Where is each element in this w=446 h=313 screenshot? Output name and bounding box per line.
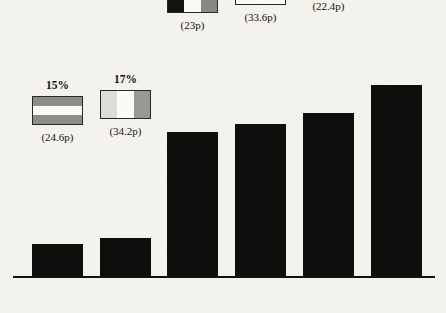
flag-band: [201, 0, 217, 12]
flag-band: [236, 0, 285, 4]
flag-band: [33, 97, 82, 106]
pence-label-italy: (34.2p): [90, 125, 161, 137]
flag-band: [168, 0, 184, 12]
flag-band: [134, 91, 150, 118]
value-label-italy: 17%: [92, 73, 159, 85]
bar-netherlands[interactable]: [303, 113, 354, 276]
x-axis-line: [13, 276, 435, 278]
flag-band: [184, 0, 200, 12]
flag-france-icon: [167, 0, 218, 13]
pence-label-spain: (24.6p): [22, 131, 93, 143]
pence-label-netherlands: (22.4p): [293, 0, 364, 12]
flag-band: [117, 91, 133, 118]
bar-chart: 15% (24.6p) Spain 17% (34.2p) Italy: [0, 0, 446, 313]
pence-label-germany: (33.6p): [225, 11, 296, 23]
pence-label-france: (23p): [157, 19, 228, 31]
bar-spain[interactable]: [32, 244, 83, 276]
flag-italy-icon: [100, 90, 151, 119]
flag-band: [33, 106, 82, 115]
flag-germany-icon: [235, 0, 286, 5]
bar-germany[interactable]: [235, 124, 286, 276]
flag-spain-icon: [32, 96, 83, 125]
bar-france[interactable]: [167, 132, 218, 276]
value-label-spain: 15%: [24, 79, 91, 91]
plot-area: 15% (24.6p) Spain 17% (34.2p) Italy: [0, 0, 446, 313]
flag-band: [101, 91, 117, 118]
flag-band: [33, 115, 82, 124]
bar-italy[interactable]: [100, 238, 151, 276]
bar-uk[interactable]: [371, 85, 422, 276]
